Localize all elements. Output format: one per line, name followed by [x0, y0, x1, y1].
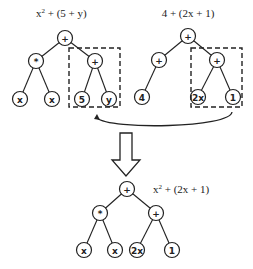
node-plus: +: [152, 53, 167, 68]
parent-tree-2: 4 + (2x + 1) + + + 4 2x 1: [135, 7, 243, 107]
svg-text:2x: 2x: [131, 246, 143, 256]
node-leaf-1: 1: [226, 90, 241, 105]
node-plus: +: [149, 206, 164, 221]
parent-tree-1: x2 + (5 + y) + * + x x 5 y: [13, 7, 121, 107]
node-plus-root: +: [120, 182, 135, 197]
svg-text:1: 1: [169, 246, 175, 256]
svg-text:+: +: [123, 185, 131, 195]
node-leaf-x: x: [45, 92, 60, 107]
svg-text:+: +: [152, 209, 160, 219]
parent2-expression: 4 + (2x + 1): [162, 7, 215, 20]
node-multiply: *: [93, 206, 108, 221]
curved-arrow-icon: [97, 112, 232, 126]
node-plus-root: +: [181, 29, 196, 44]
svg-text:1: 1: [230, 93, 236, 103]
svg-text:+: +: [91, 57, 99, 67]
node-multiply: *: [29, 54, 44, 69]
node-leaf-x: x: [13, 92, 28, 107]
svg-text:y: y: [106, 95, 112, 105]
svg-text:5: 5: [79, 95, 85, 105]
node-leaf-1: 1: [165, 243, 180, 258]
offspring-tree: x2 + (2x + 1) + * + x x 2x 1: [77, 182, 210, 258]
svg-text:*: *: [98, 209, 103, 219]
node-leaf-2x: 2x: [130, 243, 145, 258]
crossover-diagram: x2 + (5 + y) + * + x x 5 y 4 + (2x + 1) …: [0, 0, 253, 269]
node-plus: +: [88, 54, 103, 69]
parent1-expression: x2 + (5 + y): [36, 7, 87, 20]
svg-text:+: +: [61, 34, 69, 44]
svg-text:x: x: [112, 246, 118, 256]
node-plus: +: [210, 53, 225, 68]
down-arrow-icon: [112, 133, 140, 176]
svg-text:2x: 2x: [192, 93, 204, 103]
node-leaf-5: 5: [75, 92, 90, 107]
svg-text:+: +: [213, 56, 221, 66]
svg-text:x: x: [49, 95, 55, 105]
swap-arrow: [94, 112, 232, 126]
svg-text:+: +: [155, 56, 163, 66]
node-leaf-2x: 2x: [191, 90, 206, 105]
arrowhead-icon: [94, 114, 100, 120]
svg-text:x: x: [81, 246, 87, 256]
node-plus-root: +: [58, 31, 73, 46]
node-leaf-y: y: [102, 92, 117, 107]
svg-text:+: +: [184, 32, 192, 42]
svg-text:x: x: [17, 95, 23, 105]
svg-text:*: *: [34, 57, 39, 67]
node-leaf-x: x: [77, 243, 92, 258]
svg-text:4: 4: [139, 93, 145, 103]
node-leaf-4: 4: [135, 90, 150, 105]
offspring-expression: x2 + (2x + 1): [153, 183, 210, 196]
node-leaf-x: x: [108, 243, 123, 258]
